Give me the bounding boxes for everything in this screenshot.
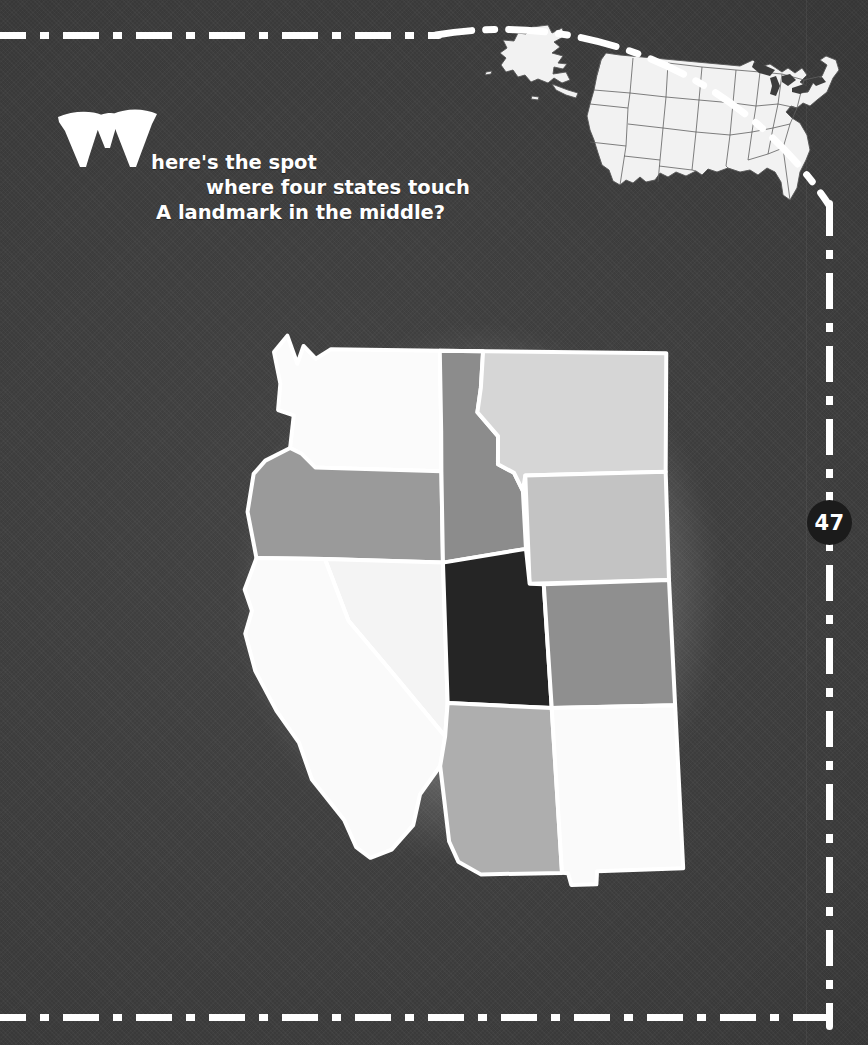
state-arizona[interactable] [434, 692, 569, 884]
headline-line-1: here's the spot [151, 150, 317, 175]
border-rule-bottom [0, 1014, 835, 1021]
state-colorado[interactable] [539, 571, 682, 718]
headline-line-3: A landmark in the middle? [156, 200, 445, 225]
inset-alaska-panhandle [552, 84, 578, 98]
inset-alaska [500, 25, 570, 83]
dropcap-w-icon: W [56, 104, 160, 174]
inset-alaska-aleutians [485, 71, 492, 75]
headline-line-2: where four states touch [206, 175, 470, 200]
border-rule-right [826, 200, 833, 1030]
inset-contiguous-usa [587, 53, 839, 200]
page-number-badge: 47 [807, 500, 852, 545]
inset-alaska-aleutians-2 [531, 96, 539, 100]
state-new-mexico[interactable] [545, 695, 693, 888]
border-rule-top [0, 32, 442, 39]
page-canvas: 47 W here's the spot where four states t… [0, 0, 868, 1045]
state-wyoming[interactable] [518, 461, 677, 595]
page-number: 47 [814, 511, 844, 535]
us-locator-map [470, 20, 840, 220]
